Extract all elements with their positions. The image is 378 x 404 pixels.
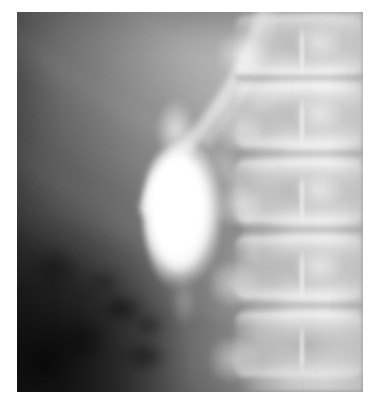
transverse-process-1 <box>218 35 263 73</box>
spinous-process-line-3 <box>300 172 304 225</box>
disc-space-2 <box>235 149 363 158</box>
spinous-process-line-4 <box>300 248 304 301</box>
gallbladder-fundus-tail <box>173 278 195 324</box>
bowel-gas-pocket-2 <box>131 312 166 339</box>
spinous-process-line-2 <box>300 96 304 149</box>
transverse-process-3 <box>218 187 263 225</box>
bowel-gas-pocket-3 <box>121 339 169 373</box>
disc-space-1 <box>235 73 363 82</box>
spinous-process-line-5 <box>300 324 304 377</box>
bowel-gas-pocket-4 <box>55 316 110 362</box>
disc-space-3 <box>235 225 363 234</box>
radiograph-image <box>17 12 363 392</box>
transverse-process-5 <box>211 339 259 381</box>
screenshot-root <box>0 0 378 404</box>
bowel-gas-pocket-6 <box>31 248 79 286</box>
gallbladder-core-highlight <box>150 155 209 273</box>
transverse-process-4 <box>211 263 259 305</box>
spinous-process-line-1 <box>300 23 304 76</box>
disc-space-4 <box>235 301 363 310</box>
transverse-process-2 <box>218 111 263 149</box>
